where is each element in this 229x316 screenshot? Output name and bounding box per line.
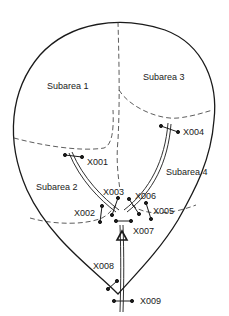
station-x005: X005 [153, 207, 174, 216]
station-x003: X003 [103, 188, 124, 197]
triangle-icon [117, 231, 127, 240]
label-subarea-1: Subarea 1 [47, 82, 89, 91]
station-x008: X008 [93, 262, 114, 271]
watershed-boundary [13, 22, 214, 294]
station-x004: X004 [183, 128, 204, 137]
station-x006: X006 [135, 192, 156, 201]
label-subarea-3: Subarea 3 [143, 73, 185, 82]
station-x001: X001 [87, 158, 108, 167]
label-subarea-2: Subarea 2 [36, 183, 78, 192]
label-subarea-4: Subarea 4 [166, 168, 208, 177]
station-x002: X002 [74, 209, 95, 218]
watershed-diagram [0, 0, 229, 316]
station-x009: X009 [140, 297, 161, 306]
station-x007: X007 [133, 227, 154, 236]
